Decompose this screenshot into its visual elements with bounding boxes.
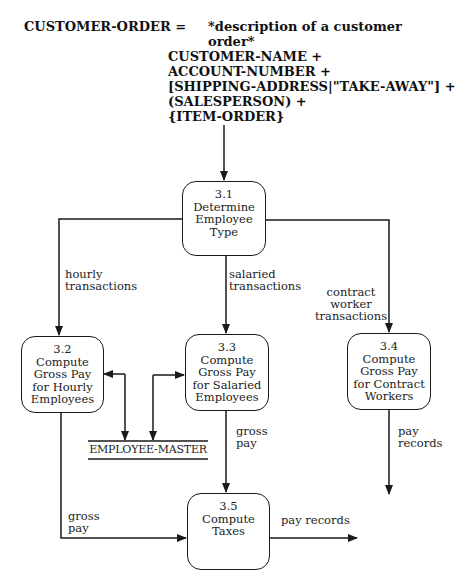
flow-label-pay-records-out: pay records (281, 514, 350, 526)
flow-label-pay-records-contract: pay records (398, 425, 442, 449)
process-label-line: Gross Pay (22, 368, 103, 381)
process-label-line: Gross Pay (348, 365, 430, 378)
process-3-5-compute-taxes: 3.5 Compute Taxes (187, 493, 270, 570)
flow-label-line: pay (236, 437, 268, 449)
process-3-1-determine-employee-type: 3.1 Determine Employee Type (182, 181, 266, 256)
process-id: 3.1 (183, 188, 265, 201)
flow-label-contract-worker-transactions: contract worker transactions (313, 286, 389, 322)
flow-label-line: transactions (313, 310, 389, 322)
process-3-4-compute-gross-pay-contract: 3.4 Compute Gross Pay for Contract Worke… (347, 333, 431, 410)
flow-label-line: records (398, 437, 442, 449)
flow-label-line: transactions (229, 280, 301, 292)
flow-label-gross-pay-hourly: gross pay (68, 510, 100, 534)
process-id: 3.5 (188, 500, 269, 513)
flow-label-salaried-transactions: salaried transactions (229, 268, 301, 292)
process-3-2-compute-gross-pay-hourly: 3.2 Compute Gross Pay for Hourly Employe… (21, 336, 104, 413)
flow-label-line: transactions (65, 280, 137, 292)
flow-label-gross-pay-salaried: gross pay (236, 425, 268, 449)
process-label-line: Taxes (188, 525, 269, 538)
flow-label-hourly-transactions: hourly transactions (65, 268, 137, 292)
process-label-line: Employee (183, 213, 265, 226)
process-3-3-compute-gross-pay-salaried: 3.3 Compute Gross Pay for Salaried Emplo… (185, 334, 269, 411)
process-label-line: Employees (186, 391, 268, 404)
process-label-line: Employees (22, 393, 103, 406)
process-id: 3.3 (186, 341, 268, 354)
flow-label-line: pay (68, 522, 100, 534)
process-id: 3.2 (22, 343, 103, 356)
process-id: 3.4 (348, 340, 430, 353)
process-label-line: Gross Pay (186, 366, 268, 379)
process-label-line: Type (183, 226, 265, 239)
data-store-employee-master: EMPLOYEE-MASTER (88, 443, 208, 456)
process-label-line: Workers (348, 390, 430, 403)
